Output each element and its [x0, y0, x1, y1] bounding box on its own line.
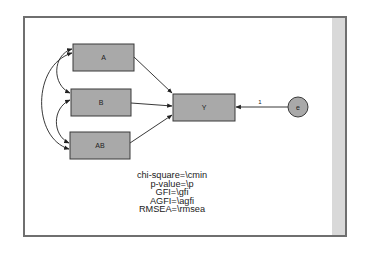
fit-statistics-block: chi-square=\cmin p-value=\p GFI=\gfi AGF… — [112, 171, 232, 214]
variable-box-y[interactable]: Y — [173, 94, 235, 121]
path-ab-to-y[interactable] — [130, 115, 172, 143]
path-b-to-y[interactable] — [131, 103, 172, 106]
rmsea-label: RMSEA=\rmsea — [112, 205, 232, 214]
variable-label-b: B — [99, 99, 104, 106]
covariance-b-ab[interactable] — [56, 100, 70, 143]
variable-box-b[interactable]: B — [71, 89, 131, 116]
error-term-e[interactable]: e — [288, 97, 308, 117]
error-path-weight-label: 1 — [258, 99, 262, 105]
variable-box-a[interactable]: A — [73, 44, 134, 71]
path-diagram: A B AB Y e 1 — [0, 0, 367, 254]
error-label-e: e — [296, 104, 300, 111]
variable-box-ab[interactable]: AB — [70, 132, 130, 159]
variable-label-a: A — [101, 54, 106, 61]
path-a-to-y[interactable] — [134, 57, 172, 93]
variable-label-y: Y — [202, 104, 207, 111]
variable-label-ab: AB — [95, 142, 105, 149]
covariance-a-b[interactable] — [57, 49, 72, 93]
